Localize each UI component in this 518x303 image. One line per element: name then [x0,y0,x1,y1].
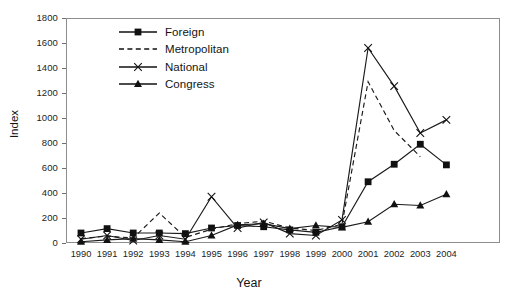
data-point-marker-foreign [391,161,398,168]
data-point-marker-foreign [417,141,424,148]
legend-key-icon-foreign [118,25,158,39]
legend-label: Foreign [165,26,204,38]
legend-item-national[interactable]: National [118,58,229,76]
legend-label: National [165,61,208,73]
data-point-marker-congress [312,221,320,228]
data-point-marker-national [390,82,398,90]
data-point-marker-national [208,193,216,201]
data-point-marker-national [443,116,451,124]
data-point-marker-national [417,129,425,137]
legend-key-icon-congress [118,77,158,91]
legend-marker-sample [135,28,142,35]
legend-label: Metropolitan [165,43,229,55]
legend-item-metropolitan[interactable]: Metropolitan [118,41,229,59]
data-point-marker-foreign [104,225,111,232]
data-point-marker-congress [442,190,450,197]
data-point-marker-congress [390,200,398,207]
legend-key-icon-national [118,60,158,74]
chart-figure: 020040060080010001200140016001800 199019… [0,0,518,303]
data-point-marker-foreign [208,225,215,232]
series-line-metropolitan [81,82,420,239]
legend-item-congress[interactable]: Congress [118,76,229,94]
data-point-marker-foreign [78,230,85,237]
data-point-marker-congress [364,218,372,225]
legend-item-foreign[interactable]: Foreign [118,23,229,41]
data-point-marker-foreign [365,178,372,185]
data-series-layer [0,0,518,303]
chart-legend: ForeignMetropolitanNationalCongress [118,23,229,93]
legend-label: Congress [165,78,215,90]
data-point-marker-foreign [443,161,450,168]
legend-key-icon-metropolitan [118,42,158,56]
